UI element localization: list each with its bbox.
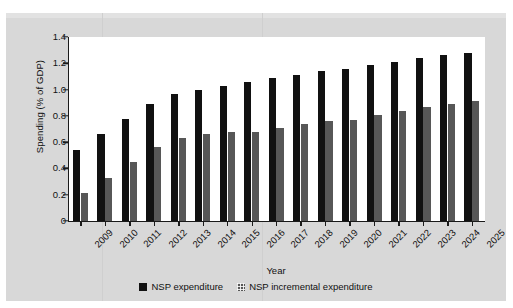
bar-primary bbox=[269, 78, 276, 221]
bar-group bbox=[142, 37, 166, 221]
y-axis-ticks: 00.20.40.60.81.01.21.4 bbox=[6, 37, 66, 221]
x-axis-title: Year bbox=[68, 265, 484, 276]
x-axis-tick-labels: 2009201020112012201320142015201620172018… bbox=[68, 227, 484, 267]
x-tick-label: 2024 bbox=[459, 227, 482, 250]
x-tick-mark bbox=[423, 222, 424, 226]
x-tick-mark bbox=[227, 222, 228, 226]
x-tick-label: 2018 bbox=[313, 227, 336, 250]
plot-area bbox=[68, 37, 485, 222]
bar-primary bbox=[342, 69, 349, 221]
x-tick-mark bbox=[398, 222, 399, 226]
x-tick-mark bbox=[154, 222, 155, 226]
bar-group bbox=[93, 37, 117, 221]
x-tick-label: 2015 bbox=[239, 227, 262, 250]
bar-secondary bbox=[325, 121, 332, 221]
bar-secondary bbox=[374, 115, 381, 221]
bar-primary bbox=[244, 82, 251, 221]
legend-swatch-icon-secondary bbox=[237, 283, 245, 291]
x-tick-label: 2019 bbox=[337, 227, 360, 250]
x-tick-label: 2022 bbox=[411, 227, 434, 250]
x-tick-label: 2025 bbox=[484, 227, 507, 250]
x-tick-mark bbox=[105, 222, 106, 226]
bar-secondary bbox=[301, 124, 308, 221]
x-tick-mark bbox=[472, 222, 473, 226]
bar-group bbox=[216, 37, 240, 221]
legend-item-nsp-expenditure: NSP expenditure bbox=[139, 281, 223, 292]
bar-group bbox=[387, 37, 411, 221]
legend-label-secondary: NSP incremental expenditure bbox=[249, 281, 372, 292]
bar-secondary bbox=[228, 132, 235, 221]
bar-group bbox=[69, 37, 93, 221]
bar-primary bbox=[367, 65, 374, 221]
bar-secondary bbox=[252, 132, 259, 221]
bar-primary bbox=[195, 90, 202, 221]
x-tick-label: 2023 bbox=[435, 227, 458, 250]
bar-group bbox=[289, 37, 313, 221]
bar-secondary bbox=[154, 147, 161, 221]
bar-primary bbox=[416, 58, 423, 221]
x-tick-label: 2013 bbox=[190, 227, 213, 250]
x-tick-mark bbox=[252, 222, 253, 226]
x-tick-mark bbox=[129, 222, 130, 226]
x-tick-mark bbox=[447, 222, 448, 226]
bar-primary bbox=[220, 86, 227, 221]
legend-item-nsp-incremental-expenditure: NSP incremental expenditure bbox=[237, 281, 372, 292]
bar-secondary bbox=[105, 178, 112, 221]
x-tick-mark bbox=[178, 222, 179, 226]
bar-secondary bbox=[423, 107, 430, 221]
bar-secondary bbox=[472, 101, 479, 221]
x-tick-label: 2011 bbox=[141, 227, 163, 249]
bar-group bbox=[412, 37, 436, 221]
x-tick-mark bbox=[325, 222, 326, 226]
x-tick-label: 2020 bbox=[362, 227, 385, 250]
bar-secondary bbox=[399, 111, 406, 221]
bar-secondary bbox=[203, 134, 210, 221]
bar-primary bbox=[293, 75, 300, 221]
bar-group bbox=[363, 37, 387, 221]
x-tick-mark bbox=[276, 222, 277, 226]
x-tick-label: 2016 bbox=[264, 227, 287, 250]
bar-primary bbox=[73, 150, 80, 221]
bar-primary bbox=[122, 119, 129, 222]
x-tick-mark bbox=[203, 222, 204, 226]
x-tick-mark bbox=[300, 222, 301, 226]
bar-primary bbox=[464, 53, 471, 221]
bar-group bbox=[314, 37, 338, 221]
bar-primary bbox=[97, 134, 104, 221]
bar-group bbox=[167, 37, 191, 221]
bar-secondary bbox=[81, 193, 88, 221]
bar-secondary bbox=[179, 138, 186, 221]
bar-group bbox=[338, 37, 362, 221]
legend-label-primary: NSP expenditure bbox=[151, 281, 223, 292]
bar-group bbox=[191, 37, 215, 221]
legend-swatch-icon-primary bbox=[139, 283, 147, 291]
x-tick-mark bbox=[349, 222, 350, 226]
bar-primary bbox=[318, 71, 325, 221]
bar-primary bbox=[391, 62, 398, 221]
bar-group bbox=[265, 37, 289, 221]
x-tick-mark bbox=[80, 222, 81, 226]
bar-group bbox=[461, 37, 485, 221]
x-tick-mark bbox=[374, 222, 375, 226]
bar-secondary bbox=[130, 162, 137, 221]
x-tick-label: 2021 bbox=[386, 227, 409, 250]
bar-primary bbox=[171, 94, 178, 221]
scanned-page: Spending (% of GDP) 00.20.40.60.81.01.21… bbox=[0, 0, 513, 308]
bar-primary bbox=[440, 55, 447, 221]
bar-group bbox=[436, 37, 460, 221]
bars-layer bbox=[69, 37, 485, 221]
x-tick-label: 2017 bbox=[288, 227, 311, 250]
bar-primary bbox=[146, 104, 153, 221]
bar-secondary bbox=[350, 120, 357, 221]
bar-group bbox=[240, 37, 264, 221]
chart-legend: NSP expenditure NSP incremental expendit… bbox=[6, 281, 506, 292]
bar-secondary bbox=[276, 128, 283, 221]
x-tick-label: 2009 bbox=[92, 227, 115, 250]
bar-secondary bbox=[448, 104, 455, 221]
x-tick-label: 2010 bbox=[117, 227, 140, 250]
x-tick-label: 2012 bbox=[166, 227, 189, 250]
x-tick-label: 2014 bbox=[215, 227, 238, 250]
bar-chart-figure: Spending (% of GDP) 00.20.40.60.81.01.21… bbox=[6, 13, 506, 301]
bar-group bbox=[118, 37, 142, 221]
